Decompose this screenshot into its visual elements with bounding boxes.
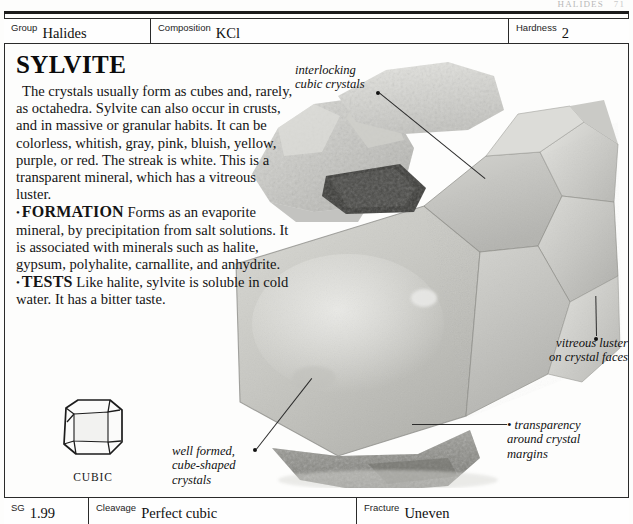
leader-line-well-formed <box>256 378 312 450</box>
callout-line: crystals <box>172 473 236 487</box>
footer-data-row: SG 1.99 Cleavage Perfect cubic Fracture … <box>4 497 629 524</box>
header-data-row: Group Halides Composition KCl Hardness 2 <box>4 18 629 44</box>
callout-line: interlocking <box>295 63 365 77</box>
callout-line: well formed, <box>172 444 236 458</box>
field-composition-value: KCl <box>216 26 240 41</box>
leader-line-interlocking <box>378 92 485 179</box>
callout-line: around crystal <box>507 432 581 446</box>
field-hardness-label: Hardness <box>516 23 557 33</box>
callout-transparency-margins: • transparency around crystal margins <box>507 418 581 461</box>
field-fracture-value: Uneven <box>404 506 449 521</box>
leader-line-vitreous <box>595 296 597 336</box>
field-fracture: Fracture Uneven <box>356 498 629 524</box>
field-cleavage-value: Perfect cubic <box>141 506 217 521</box>
callout-line: cube-shaped <box>172 458 236 472</box>
cube-crystal-icon <box>52 392 134 466</box>
field-fracture-label: Fracture <box>364 503 399 513</box>
field-group-value: Halides <box>42 26 86 41</box>
dark-inclusion <box>322 164 426 214</box>
section-formation: •FORMATION Forms as an evaporite mineral… <box>16 203 294 273</box>
article-column: SYLVITE The crystals usually form as cub… <box>16 52 294 309</box>
habit-caption: CUBIC <box>45 471 141 483</box>
frame-border-left <box>4 14 5 522</box>
page-number: 71 <box>614 0 625 9</box>
field-hardness-value: 2 <box>562 26 569 41</box>
callout-line: vitreous luster <box>549 336 628 350</box>
top-rule <box>4 11 629 14</box>
field-group-label: Group <box>11 23 37 33</box>
field-group: Group Halides <box>4 19 150 43</box>
callout-vitreous-luster: vitreous luster on crystal faces <box>549 336 628 365</box>
right-cube-cluster <box>424 122 622 418</box>
running-head-title: HALIDES <box>558 0 604 9</box>
callout-interlocking-cubic-crystals: interlocking cubic crystals <box>295 63 365 92</box>
callout-line: on crystal faces <box>549 350 628 364</box>
crystal-habit-diagram: CUBIC <box>45 392 141 483</box>
kicker-formation: FORMATION <box>22 203 124 220</box>
mineral-guide-page: HALIDES71 Group Halides Composition KCl … <box>0 0 633 524</box>
callout-line: cubic crystals <box>295 77 365 91</box>
upper-right-blocks <box>486 100 618 156</box>
bullet-formation: • <box>16 206 20 218</box>
leader-dot-vitreous <box>594 337 598 341</box>
field-sg: SG 1.99 <box>4 498 88 524</box>
field-hardness: Hardness 2 <box>508 19 629 43</box>
running-head: HALIDES71 <box>558 0 625 9</box>
rock-matrix <box>272 430 480 488</box>
field-composition: Composition KCl <box>150 19 508 43</box>
frame-border-right <box>628 14 629 522</box>
callout-line: margins <box>507 447 581 461</box>
callout-line: • transparency <box>507 418 581 432</box>
field-composition-label: Composition <box>158 23 211 33</box>
page-title: SYLVITE <box>16 52 294 77</box>
field-sg-value: 1.99 <box>30 506 55 521</box>
section-tests: •TESTS Like halite, sylvite is soluble i… <box>16 273 294 308</box>
field-cleavage: Cleavage Perfect cubic <box>88 498 356 524</box>
callout-well-formed-crystals: well formed, cube-shaped crystals <box>172 444 236 487</box>
field-sg-label: SG <box>11 503 25 513</box>
field-cleavage-label: Cleavage <box>96 503 136 513</box>
intro-paragraph: The crystals usually form as cubes and, … <box>16 83 294 203</box>
kicker-tests: TESTS <box>22 273 73 290</box>
leader-line-transparency <box>412 424 507 425</box>
bullet-tests: • <box>16 276 20 288</box>
